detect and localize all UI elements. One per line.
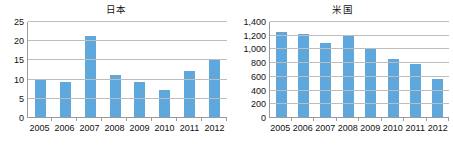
y-axis-usa: 02004006008001,0001,2001,400 [234,22,266,118]
y-tick-label: 25 [14,18,24,27]
gridline [28,98,227,99]
x-tick-mark [359,118,382,121]
gridline [270,48,449,49]
y-tick-label: 20 [14,37,24,46]
x-tick-label: 2012 [427,123,450,133]
x-tick-mark [202,118,227,121]
x-tick-mark [337,118,360,121]
x-tick-mark [382,118,405,121]
x-tick-label: 2012 [202,123,227,133]
x-tick-mark [404,118,427,121]
x-tick-label: 2010 [152,123,177,133]
y-tick-label: 800 [251,59,266,68]
gridline [28,21,227,22]
bar-2010 [159,90,170,117]
plot-area-japan [27,22,227,118]
x-tick-mark [269,118,292,121]
y-tick-label: 400 [251,86,266,95]
x-tick-mark [292,118,315,121]
x-tick-label: 2005 [269,123,292,133]
y-tick-label: 600 [251,72,266,81]
x-tick-mark [127,118,152,121]
x-tick-label: 2008 [337,123,360,133]
gridline [28,79,227,80]
x-tick-mark [52,118,77,121]
gridline [270,35,449,36]
gridline [270,76,449,77]
x-axis-japan: 20052006200720082009201020112012 [27,123,227,133]
bar-slot [128,22,153,117]
bar-slot [78,22,103,117]
bars-layer-japan [28,22,227,117]
bar-2007 [85,36,96,117]
x-tick-label: 2007 [77,123,102,133]
y-tick-label: 1,400 [243,18,266,27]
x-tick-mark [102,118,127,121]
y-tick-label: 1,000 [243,45,266,54]
y-tick-label: 0 [19,114,24,123]
x-tick-label: 2009 [359,123,382,133]
x-tick-label: 2011 [404,123,427,133]
x-tick-mark [77,118,102,121]
y-tick-label: 5 [19,94,24,103]
y-tick-label: 200 [251,100,266,109]
chart-title-japan: 日本 [0,0,232,16]
bar-slot [152,22,177,117]
x-tick-label: 2005 [27,123,52,133]
x-tick-label: 2008 [102,123,127,133]
charts-container: 日本 0510152025 20052006200720082009201020… [0,0,453,156]
x-tick-label: 2010 [382,123,405,133]
x-tick-label: 2011 [177,123,202,133]
gridline [270,62,449,63]
plot-wrap-usa: 02004006008001,0001,2001,400 20052006200… [234,22,449,136]
bar-2012 [432,79,443,117]
x-tick-label: 2009 [127,123,152,133]
y-axis-japan: 0510152025 [2,22,24,118]
plot-wrap-japan: 0510152025 20052006200720082009201020112… [2,22,227,136]
x-tick-mark [427,118,450,121]
bar-2010 [388,59,399,117]
chart-title-usa: 米国 [232,0,453,16]
bar-2007 [320,43,331,117]
x-axis-usa: 20052006200720082009201020112012 [269,123,449,133]
bar-2009 [134,82,145,117]
x-tick-marks-japan [27,118,227,121]
y-tick-label: 1,200 [243,31,266,40]
x-tick-label: 2006 [292,123,315,133]
gridline [270,103,449,104]
y-tick-label: 15 [14,56,24,65]
x-tick-label: 2006 [52,123,77,133]
x-tick-marks-usa [269,118,449,121]
chart-panel-japan: 日本 0510152025 20052006200720082009201020… [0,0,232,156]
bar-2012 [209,59,220,117]
x-tick-label: 2007 [314,123,337,133]
bar-2008 [110,75,121,117]
chart-panel-usa: 米国 02004006008001,0001,2001,400 20052006… [232,0,453,156]
y-tick-label: 0 [261,114,266,123]
bar-slot [202,22,227,117]
y-tick-label: 10 [14,75,24,84]
bar-2006 [60,82,71,117]
x-tick-mark [152,118,177,121]
gridline [28,40,227,41]
gridline [28,59,227,60]
bar-slot [28,22,53,117]
bar-2011 [410,64,421,117]
bar-slot [53,22,78,117]
gridline [270,21,449,22]
plot-area-usa [269,22,449,118]
x-tick-mark [314,118,337,121]
bar-slot [103,22,128,117]
x-tick-mark [27,118,52,121]
x-tick-mark [177,118,202,121]
gridline [270,90,449,91]
bar-2009 [365,49,376,117]
bar-slot [177,22,202,117]
